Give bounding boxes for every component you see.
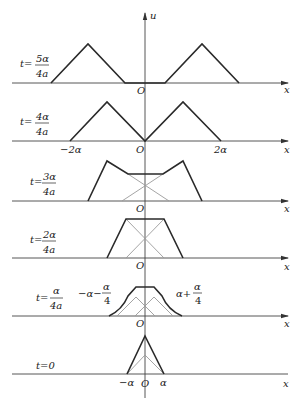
time-numerator: 2α	[42, 229, 56, 240]
time-denominator: 4a	[42, 244, 55, 255]
panel-t3: x O t= 3α 4a	[12, 161, 290, 214]
x-tick-neg-2alpha: −2α	[60, 144, 82, 155]
time-numerator: α	[53, 285, 60, 296]
right-edge-denominator: 4	[195, 295, 201, 306]
time-denominator: 4a	[35, 68, 48, 79]
component-wave-right	[135, 297, 173, 316]
time-prefix: t=	[20, 116, 32, 127]
time-prefix: t=	[20, 58, 32, 69]
x-axis-label: x	[284, 203, 290, 214]
time-prefix: t=	[36, 292, 48, 303]
time-label: t=0	[36, 360, 55, 371]
time-prefix: t=	[30, 234, 42, 245]
origin-label: O	[137, 85, 145, 96]
x-axis-label: x	[284, 144, 290, 155]
left-edge-prefix: −α−	[78, 288, 102, 299]
time-denominator: 4a	[49, 300, 62, 311]
time-numerator: 3α	[43, 171, 56, 182]
waveform-curve	[109, 287, 182, 316]
time-denominator: 4a	[42, 186, 55, 197]
x-tick-neg-alpha: −α	[119, 377, 134, 388]
right-edge-numerator: α	[194, 281, 201, 292]
origin-label: O	[141, 378, 149, 389]
x-tick-2alpha: 2α	[213, 144, 227, 155]
panel-t4: x O −2α 2α t= 4α 4a	[12, 102, 290, 155]
origin-label: O	[136, 144, 144, 155]
time-numerator: 5α	[36, 53, 49, 64]
time-prefix: t=	[30, 176, 42, 187]
origin-label: O	[136, 260, 144, 271]
component-wave-right	[122, 174, 163, 201]
right-edge-prefix: α+	[176, 288, 191, 299]
wave-propagation-diagram: u x O t= 5α 4a x O −2α 2α t= 4α 4a x O t…	[0, 0, 299, 401]
waveform-curve	[70, 102, 221, 141]
x-axis-label: x	[284, 261, 290, 272]
panel-t5: x O t= 5α 4a	[12, 44, 290, 96]
component-wave-left	[117, 297, 155, 316]
time-denominator: 4a	[35, 126, 48, 137]
origin-label: O	[136, 203, 144, 214]
left-edge-numerator: α	[103, 281, 110, 292]
panel-t1: x O t= α 4a −α− α 4 α+ α 4	[12, 281, 290, 329]
x-axis-label: x	[283, 378, 289, 389]
x-axis-label: x	[284, 318, 290, 329]
panel-t2: x O t= 2α 4a	[12, 219, 290, 272]
panel-t0: x O −α α t=0	[12, 336, 289, 389]
x-axis-label: x	[284, 84, 290, 95]
x-tick-alpha: α	[160, 377, 167, 388]
origin-label: O	[136, 318, 144, 329]
time-numerator: 4α	[35, 111, 49, 122]
u-axis-label: u	[150, 10, 156, 21]
left-edge-denominator: 4	[104, 295, 110, 306]
component-wave-left	[128, 174, 169, 201]
